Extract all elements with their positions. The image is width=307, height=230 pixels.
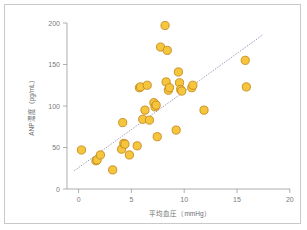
x-tick-label-0: 0 xyxy=(77,196,81,203)
data-point xyxy=(172,126,180,134)
data-point xyxy=(121,140,129,148)
data-point xyxy=(143,81,151,89)
scatter-plot-figure: 0 50 100 150 200 0 5 10 15 20 平均血圧（mmHg）… xyxy=(5,5,302,225)
data-point-group xyxy=(77,21,250,174)
data-point xyxy=(109,166,117,174)
x-axis-title: 平均血圧（mmHg） xyxy=(149,209,210,218)
x-tick-label-15: 15 xyxy=(233,196,241,203)
data-point xyxy=(163,46,171,54)
data-point xyxy=(125,151,133,159)
data-point xyxy=(133,142,141,150)
y-tick-label-200: 200 xyxy=(48,20,60,27)
y-tick-label-100: 100 xyxy=(48,103,60,110)
data-point xyxy=(77,146,85,154)
data-point xyxy=(153,133,161,141)
data-point xyxy=(141,106,149,114)
y-axis-ticks: 0 50 100 150 200 xyxy=(48,20,67,193)
figure-frame: 0 50 100 150 200 0 5 10 15 20 平均血圧（mmHg）… xyxy=(4,4,301,224)
data-point xyxy=(241,56,249,64)
data-point xyxy=(189,81,197,89)
data-point xyxy=(152,101,160,109)
data-point xyxy=(178,87,186,95)
x-tick-label-5: 5 xyxy=(129,196,133,203)
trend-line xyxy=(74,35,263,171)
y-tick-label-50: 50 xyxy=(52,144,60,151)
y-tick-label-0: 0 xyxy=(56,186,60,193)
data-point xyxy=(200,106,208,114)
x-tick-label-20: 20 xyxy=(286,196,294,203)
data-point xyxy=(119,119,127,127)
data-point xyxy=(145,116,153,124)
x-axis-ticks: 0 5 10 15 20 xyxy=(77,189,294,203)
data-point xyxy=(174,68,182,76)
y-tick-label-150: 150 xyxy=(48,61,60,68)
data-point xyxy=(161,21,169,29)
y-axis-title: ANP濃度（pg/mL） xyxy=(27,76,36,135)
data-point xyxy=(165,84,173,92)
data-point xyxy=(96,151,104,159)
data-point xyxy=(242,83,250,91)
x-tick-label-10: 10 xyxy=(180,196,188,203)
